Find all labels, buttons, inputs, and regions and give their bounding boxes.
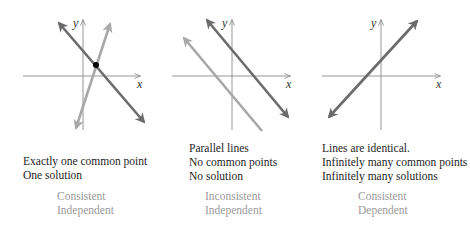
- x-axis-label: x: [285, 77, 292, 91]
- description-line: Parallel lines: [189, 141, 277, 155]
- panel-3-classification: Consistent Dependent: [358, 189, 408, 217]
- line-dark: [207, 20, 288, 117]
- classification-consistency: Inconsistent: [205, 189, 262, 203]
- classification-dependency: Independent: [57, 203, 114, 217]
- classification-consistency: Consistent: [57, 189, 114, 203]
- x-axis-label: x: [136, 77, 143, 91]
- panel-1-description: Exactly one common point One solution: [23, 154, 147, 182]
- graph-parallel-lines: y x: [172, 16, 292, 131]
- description-line: Infinitely many common points: [322, 155, 467, 169]
- y-axis-label: y: [370, 16, 377, 30]
- x-axis-label: x: [435, 77, 442, 91]
- description-line: Exactly one common point: [23, 154, 147, 168]
- panel-3-description: Lines are identical. Infinitely many com…: [322, 141, 467, 183]
- description-line: Lines are identical.: [322, 141, 467, 155]
- description-line: One solution: [23, 168, 147, 182]
- line-dark: [59, 23, 144, 122]
- panel-2-classification: Inconsistent Independent: [205, 189, 262, 217]
- y-axis-label: y: [221, 16, 228, 30]
- classification-dependency: Dependent: [358, 203, 408, 217]
- description-line: No solution: [189, 169, 277, 183]
- line-light: [184, 38, 262, 131]
- y-axis-label: y: [72, 16, 79, 30]
- panel-1-classification: Consistent Independent: [57, 189, 114, 217]
- graph-identical-lines: y x: [322, 16, 442, 130]
- description-line: Infinitely many solutions: [322, 169, 467, 183]
- line-identical: [329, 21, 417, 117]
- classification-consistency: Consistent: [358, 189, 408, 203]
- intersection-point: [93, 62, 99, 68]
- classification-dependency: Independent: [205, 203, 262, 217]
- panel-2-description: Parallel lines No common points No solut…: [189, 141, 277, 183]
- graph-one-solution: y x: [23, 16, 144, 130]
- description-line: No common points: [189, 155, 277, 169]
